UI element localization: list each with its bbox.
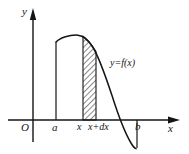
y-axis-label: y bbox=[22, 6, 27, 17]
tick-label-x-plus-dx-text: x+dx bbox=[88, 121, 109, 132]
curve-equation-label: y=f(x) bbox=[110, 58, 135, 68]
tick-label-a: a bbox=[52, 122, 58, 133]
tick-label-b: b bbox=[135, 121, 141, 132]
integral-figure: y x O a x x+dx b y=f(x) bbox=[0, 0, 189, 154]
origin-label: O bbox=[21, 122, 29, 133]
y-axis-arrowhead bbox=[30, 8, 36, 20]
tick-label-x: x bbox=[77, 122, 81, 132]
tick-label-x-plus-dx: x+dx bbox=[88, 122, 109, 132]
x-axis-label: x bbox=[168, 123, 173, 134]
